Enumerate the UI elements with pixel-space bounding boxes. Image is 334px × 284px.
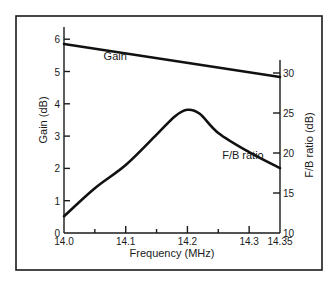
right-axis: 1015202530 xyxy=(273,60,295,239)
right-axis-tick-label: 25 xyxy=(283,108,295,119)
chart-frame xyxy=(16,16,322,270)
right-axis-tick-label: 30 xyxy=(283,68,295,79)
left-axis: 0123456 xyxy=(54,27,70,239)
x-axis-tick-label: 14.2 xyxy=(178,236,198,247)
x-axis-title: Frequency (MHz) xyxy=(130,247,215,259)
chart: 0123456 1015202530 14.014.114.214.314.35… xyxy=(0,0,334,284)
x-axis-tick-label: 14.3 xyxy=(239,236,259,247)
left-axis-tick-label: 1 xyxy=(54,196,60,207)
series-line-f-b-ratio xyxy=(64,110,280,217)
x-axis-tick-label: 14.1 xyxy=(116,236,136,247)
series-line-gain xyxy=(64,44,280,77)
right-axis-tick-label: 15 xyxy=(283,188,295,199)
left-axis-tick-label: 5 xyxy=(54,67,60,78)
x-axis-tick-label: 14.0 xyxy=(54,236,74,247)
left-axis-tick-label: 4 xyxy=(54,99,60,110)
left-axis-tick-label: 6 xyxy=(54,34,60,45)
series-label-f-b-ratio: F/B ratio xyxy=(222,149,264,161)
left-axis-tick-label: 3 xyxy=(54,131,60,142)
left-axis-title: Gain (dB) xyxy=(37,96,49,143)
right-axis-title: F/B ratio (dB) xyxy=(303,112,315,177)
right-axis-tick-label: 20 xyxy=(283,148,295,159)
x-axis: 14.014.114.214.314.35 xyxy=(54,226,293,247)
x-axis-tick-label: 14.35 xyxy=(267,236,292,247)
plot-series: GainF/B ratio xyxy=(64,44,280,216)
left-axis-tick-label: 2 xyxy=(54,163,60,174)
series-label-gain: Gain xyxy=(104,50,127,62)
